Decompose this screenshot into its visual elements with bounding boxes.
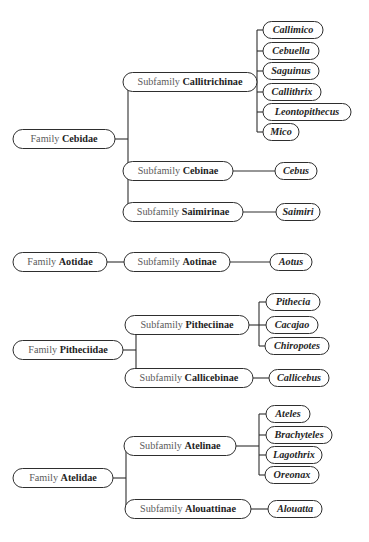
genus-node-chiropotes[interactable]: Chiropotes (265, 338, 329, 355)
family-node-pitheciidae-label: Family Pitheciidae (28, 344, 108, 355)
genus-node-leontopithecus[interactable]: Leontopithecus (263, 104, 351, 121)
genus-node-chiropotes-label: Chiropotes (274, 340, 320, 351)
genus-node-alouatta[interactable]: Alouatta (268, 501, 322, 518)
nodes-layer: Family CebidaeSubfamily CallitrichinaeCa… (13, 22, 351, 519)
genus-node-callithrix-label: Callithrix (272, 86, 313, 97)
genus-node-mico-label: Mico (269, 126, 292, 137)
subfamily-node-pitheciinae-label: Subfamily Pitheciinae (140, 319, 234, 330)
genus-node-cacajao-label: Cacajao (275, 319, 310, 330)
genus-node-aotus-label: Aotus (278, 256, 303, 267)
genus-node-cebuella-label: Cebuella (272, 45, 309, 56)
subfamily-node-alouattinae-label: Subfamily Alouattinae (140, 503, 236, 514)
genus-node-callicebus[interactable]: Callicebus (269, 370, 329, 387)
genus-node-callicebus-label: Callicebus (277, 372, 321, 383)
family-node-cebidae[interactable]: Family Cebidae (13, 130, 115, 149)
subfamily-node-aotinae-label: Subfamily Aotinae (138, 256, 217, 267)
genus-node-oreonax[interactable]: Oreonax (265, 467, 319, 484)
subfamily-node-callitrichinae-label: Subfamily Callitrichinae (138, 76, 243, 87)
genus-node-brachyteles-label: Brachyteles (273, 429, 323, 440)
genus-node-cebus[interactable]: Cebus (275, 163, 317, 180)
subfamily-node-pitheciinae[interactable]: Subfamily Pitheciinae (125, 316, 249, 335)
genus-node-cacajao[interactable]: Cacajao (266, 317, 318, 334)
genus-node-callimico[interactable]: Callimico (263, 22, 323, 39)
subfamily-node-saimirinae-label: Subfamily Saimirinae (137, 206, 230, 217)
genus-node-saimiri[interactable]: Saimiri (276, 204, 320, 221)
family-node-aotidae-label: Family Aotidae (27, 256, 93, 267)
genus-node-cebuella[interactable]: Cebuella (263, 43, 319, 60)
genus-node-leontopithecus-label: Leontopithecus (274, 106, 340, 117)
genus-node-saguinus[interactable]: Saguinus (263, 63, 319, 80)
taxonomy-tree-diagram: Family CebidaeSubfamily CallitrichinaeCa… (0, 0, 369, 542)
genus-node-callimico-label: Callimico (273, 24, 314, 35)
family-node-pitheciidae[interactable]: Family Pitheciidae (13, 341, 123, 360)
genus-node-cebus-label: Cebus (283, 165, 309, 176)
subfamily-node-aotinae[interactable]: Subfamily Aotinae (124, 253, 230, 272)
family-node-cebidae-label: Family Cebidae (30, 133, 98, 144)
subfamily-node-callitrichinae[interactable]: Subfamily Callitrichinae (123, 73, 257, 92)
genus-node-saimiri-label: Saimiri (282, 206, 313, 217)
family-node-aotidae[interactable]: Family Aotidae (13, 253, 107, 272)
subfamily-node-cebinae[interactable]: Subfamily Cebinae (123, 162, 233, 181)
subfamily-node-atelinae-label: Subfamily Atelinae (139, 440, 221, 451)
genus-node-pithecia-label: Pithecia (276, 296, 311, 307)
subfamily-node-alouattinae[interactable]: Subfamily Alouattinae (125, 500, 251, 519)
genus-node-alouatta-label: Alouatta (276, 503, 313, 514)
subfamily-node-callicebinae[interactable]: Subfamily Callicebinae (125, 369, 253, 388)
genus-node-lagothrix-label: Lagothrix (272, 449, 315, 460)
genus-node-ateles-label: Ateles (274, 408, 300, 419)
subfamily-node-atelinae[interactable]: Subfamily Atelinae (124, 437, 236, 456)
genus-node-lagothrix[interactable]: Lagothrix (266, 447, 322, 464)
family-node-atelidae-label: Family Atelidae (29, 472, 97, 483)
subfamily-node-saimirinae[interactable]: Subfamily Saimirinae (123, 203, 243, 222)
genus-node-ateles[interactable]: Ateles (266, 406, 310, 423)
genus-node-pithecia[interactable]: Pithecia (266, 294, 320, 311)
genus-node-saguinus-label: Saguinus (271, 65, 311, 76)
genus-node-callithrix[interactable]: Callithrix (263, 84, 321, 101)
subfamily-node-callicebinae-label: Subfamily Callicebinae (140, 372, 239, 383)
genus-node-brachyteles[interactable]: Brachyteles (266, 427, 332, 444)
genus-node-oreonax-label: Oreonax (274, 469, 311, 480)
family-node-atelidae[interactable]: Family Atelidae (13, 469, 113, 488)
genus-node-aotus[interactable]: Aotus (270, 254, 312, 271)
genus-node-mico[interactable]: Mico (263, 124, 299, 141)
subfamily-node-cebinae-label: Subfamily Cebinae (138, 165, 219, 176)
